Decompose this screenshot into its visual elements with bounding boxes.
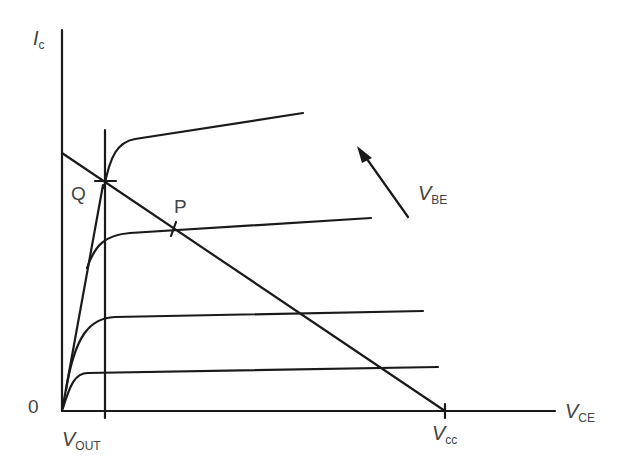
curve-3	[66, 311, 423, 390]
origin-label: 0	[28, 396, 39, 418]
vbe-arrow-shaft	[362, 152, 408, 217]
curve-4	[63, 367, 438, 408]
curve-1	[104, 113, 303, 188]
p-label: P	[174, 196, 187, 218]
q-label: Q	[71, 183, 86, 205]
vbe-arrow-head	[357, 146, 372, 163]
characteristic-plot	[0, 0, 621, 470]
y-axis-label: Ic	[33, 27, 45, 50]
vcc-label: Vcc	[432, 422, 457, 445]
x-axis-label: VCE	[565, 400, 595, 423]
curve-2	[87, 218, 371, 268]
vout-label: VOUT	[62, 428, 101, 451]
vbe-label: VBE	[418, 182, 447, 205]
